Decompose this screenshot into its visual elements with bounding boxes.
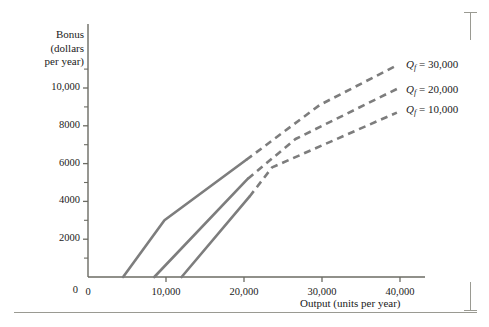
legend-item-qf-30-000: Qf = 30,000 <box>406 58 458 72</box>
legend-value: = 10,000 <box>416 103 458 115</box>
legend-symbol: Q <box>406 58 414 70</box>
legend-symbol: Q <box>406 83 414 95</box>
y-tick-label-0: 0 <box>58 284 78 295</box>
y-axis-title-line-3: per year) <box>28 55 84 69</box>
y-axis-title-line-2: (dollars <box>28 42 84 56</box>
x-tick-label-10000: 10,000 <box>152 286 181 297</box>
y-tick-label-2000: 2000 <box>28 232 80 243</box>
data-series <box>123 65 397 277</box>
series-1-dashed-line <box>248 89 397 179</box>
series-2-dashed-line <box>249 113 396 197</box>
series-0-solid-line <box>123 160 246 277</box>
y-tick-label-10000: 10,000 <box>28 81 80 92</box>
y-tick-label-8000: 8000 <box>28 119 80 130</box>
y-axis-title: Bonus (dollars per year) <box>28 28 84 69</box>
axis-ticks <box>83 69 400 282</box>
x-tick-label-40000: 40,000 <box>386 286 415 297</box>
legend-symbol: Q <box>406 103 414 115</box>
x-tick-label-0: 0 <box>85 286 90 297</box>
legend-value: = 20,000 <box>416 83 458 95</box>
legend-item-qf-20-000: Qf = 20,000 <box>406 83 458 97</box>
legend-value: = 30,000 <box>416 58 458 70</box>
x-axis-title: Output (units per year) <box>300 297 401 311</box>
legend-item-qf-10-000: Qf = 10,000 <box>406 103 458 117</box>
axis-lines <box>88 24 425 277</box>
x-tick-label-20000: 20,000 <box>230 286 259 297</box>
chart-figure: Bonus (dollars per year) Output (units p… <box>0 0 489 327</box>
y-tick-label-4000: 4000 <box>28 194 80 205</box>
x-tick-label-30000: 30,000 <box>308 286 337 297</box>
y-tick-label-6000: 6000 <box>28 157 80 168</box>
series-0-dashed-line <box>246 65 397 160</box>
y-axis-title-line-1: Bonus <box>28 28 84 42</box>
